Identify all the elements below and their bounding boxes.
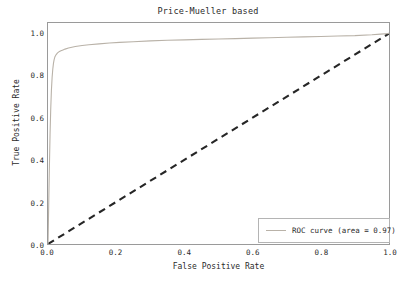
plot-area [47, 22, 390, 245]
x-tick-label: 0.4 [169, 248, 199, 257]
y-tick-label: 0.8 [18, 71, 44, 80]
roc-chart-figure: Price-Mueller based 0.00.20.40.60.81.0 0… [0, 0, 416, 284]
legend-label-roc: ROC curve (area = 0.97) [292, 226, 396, 235]
legend-box: ROC curve (area = 0.97) [258, 218, 390, 243]
chart-title: Price-Mueller based [0, 6, 416, 16]
x-tick-label: 0.0 [32, 248, 62, 257]
x-tick-label: 1.0 [375, 248, 405, 257]
y-tick-label: 0.2 [18, 198, 44, 207]
x-tick-label: 0.8 [306, 248, 336, 257]
plot-svg [48, 23, 389, 244]
x-tick-label: 0.6 [238, 248, 268, 257]
x-tick-label: 0.2 [101, 248, 131, 257]
x-axis-tick-labels: 0.00.20.40.60.81.0 [47, 248, 390, 260]
y-tick-label: 1.0 [18, 28, 44, 37]
y-tick-label: 0.4 [18, 156, 44, 165]
chance-diagonal-line [48, 34, 389, 244]
y-tick-label: 0.6 [18, 113, 44, 122]
x-axis-label: False Positive Rate [47, 262, 390, 271]
y-axis-label: True Positive Rate [12, 63, 21, 183]
legend-line-swatch-icon [266, 230, 286, 231]
